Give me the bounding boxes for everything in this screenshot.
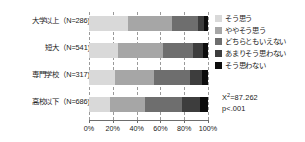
bar-segment — [154, 70, 190, 85]
x-tick-mark — [184, 120, 185, 123]
bar-segment — [193, 43, 204, 58]
bar-segment — [200, 97, 208, 112]
bar-segment — [202, 70, 208, 85]
p-value-text: p<.001 — [222, 103, 258, 114]
category-label-2: 専門学校（N=317) — [32, 70, 90, 79]
bar-segment — [190, 70, 202, 85]
bar-row — [89, 16, 208, 31]
x-tick-label: 40% — [129, 124, 143, 133]
bar-segment — [128, 16, 172, 31]
legend-label: ややそう思う — [225, 26, 266, 35]
legend-label: あまりそう思わない — [225, 49, 286, 58]
plot-area — [89, 12, 208, 120]
x-axis-line — [89, 120, 209, 121]
statistics-annotation: X2=87.262 p<.001 — [222, 90, 258, 114]
bar-segment — [89, 43, 118, 58]
x-tick-label: 0% — [84, 124, 94, 133]
legend-item[interactable]: そう思わない — [215, 59, 305, 71]
legend-item[interactable]: あまりそう思わない — [215, 48, 305, 60]
category-label-1: 短大（N=541) — [45, 43, 90, 52]
legend-label: どちらともいえない — [225, 37, 286, 46]
x-tick-mark — [89, 120, 90, 123]
legend-item[interactable]: そう思う — [215, 13, 305, 25]
legend-swatch-icon — [215, 62, 222, 69]
legend-label: そう思う — [225, 14, 252, 23]
bar-row — [89, 43, 208, 58]
legend-swatch-icon — [215, 38, 222, 45]
bar-segment — [163, 43, 193, 58]
x-tick-label: 80% — [177, 124, 191, 133]
bar-segment — [118, 43, 163, 58]
x-tick-mark — [137, 120, 138, 123]
bar-segment — [110, 97, 145, 112]
bar-segment — [145, 97, 182, 112]
category-label-3: 高校以下（N=686) — [32, 97, 90, 106]
category-label-0: 大学以上（N=286) — [32, 16, 90, 25]
bar-segment — [182, 97, 200, 112]
bar-row — [89, 97, 208, 112]
legend-item[interactable]: どちらともいえない — [215, 36, 305, 48]
legend-item[interactable]: ややそう思う — [215, 25, 305, 37]
bar-segment — [204, 16, 208, 31]
legend-swatch-icon — [215, 15, 222, 22]
legend-label: そう思わない — [225, 61, 266, 70]
bar-segment — [89, 97, 110, 112]
bar-segment — [89, 16, 128, 31]
stacked-bar-chart: 大学以上（N=286) 短大（N=541) 専門学校（N=317) 高校以下（N… — [0, 0, 305, 142]
bar-segment — [89, 70, 115, 85]
x-tick-mark — [113, 120, 114, 123]
gridline-100% — [208, 12, 209, 120]
chi-square-text: X2=87.262 — [222, 90, 258, 103]
legend-swatch-icon — [215, 27, 222, 34]
x-tick-label: 20% — [106, 124, 120, 133]
x-tick-label: 100% — [199, 124, 217, 133]
x-tick-mark — [160, 120, 161, 123]
bar-segment — [115, 70, 154, 85]
legend: そう思うややそう思うどちらともいえないあまりそう思わないそう思わない — [215, 13, 305, 71]
x-tick-label: 60% — [153, 124, 167, 133]
chi-square-value: =87.262 — [230, 93, 258, 102]
x-tick-mark — [208, 120, 209, 123]
bar-segment — [172, 16, 198, 31]
bar-row — [89, 70, 208, 85]
legend-swatch-icon — [215, 50, 222, 57]
bar-segment — [203, 43, 208, 58]
